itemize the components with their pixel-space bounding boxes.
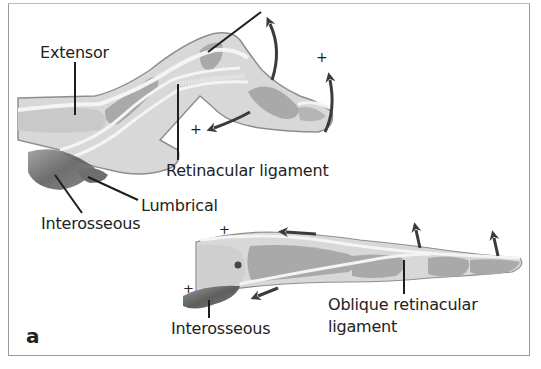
label-retinacular-ligament: Retinacular ligament bbox=[166, 163, 328, 179]
bottom-finger bbox=[196, 232, 522, 292]
label-interosseous-top: Interosseous bbox=[41, 216, 140, 232]
label-interosseous-bottom: Interosseous bbox=[171, 321, 270, 337]
label-lumbrical: Lumbrical bbox=[141, 198, 218, 214]
panel-letter: a bbox=[26, 326, 40, 346]
label-oblique-retinacular-line2: ligament bbox=[328, 319, 397, 335]
joint-axis-dot bbox=[235, 262, 242, 269]
plus-mark: + bbox=[219, 222, 230, 237]
label-extensor: Extensor bbox=[40, 45, 109, 61]
plus-mark: + bbox=[183, 281, 194, 296]
label-oblique-retinacular-line1: Oblique retinacular bbox=[328, 297, 478, 313]
plus-mark: + bbox=[316, 49, 328, 65]
plus-mark: + bbox=[190, 121, 202, 137]
